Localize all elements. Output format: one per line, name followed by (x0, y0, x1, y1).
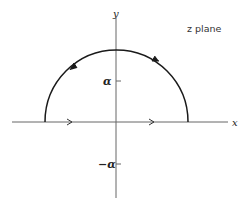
x-axis-label: x (232, 117, 238, 128)
contour-diagram: y x α −α z plane (0, 0, 242, 206)
alpha-label: α (103, 75, 112, 88)
plane-label: z plane (187, 23, 222, 34)
neg-alpha-label: −α (98, 158, 116, 171)
y-axis-label: y (112, 8, 119, 19)
arrow-ccw-icon (152, 56, 159, 61)
